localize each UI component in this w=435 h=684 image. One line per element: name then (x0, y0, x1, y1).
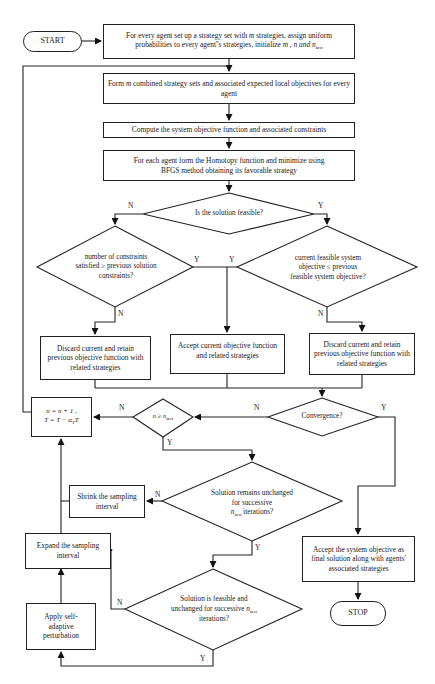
final-solution-box: Accept the system objective as final sol… (302, 536, 415, 582)
accept-current-text: Accept current objective function and re… (175, 341, 280, 360)
perturbation-box: Apply self-adaptive perturbation (26, 603, 96, 650)
objective-decision-text: current feasible system objective ≤ prev… (287, 254, 369, 282)
remains-no-label: N (155, 490, 160, 499)
perturb-box-text: Apply self-adaptive perturbation (37, 612, 85, 641)
form-box-text: Form m combined strategy sets and associ… (108, 79, 350, 98)
homotopy-box-text: For each agent form the Homotopy functio… (128, 156, 330, 175)
start-label: START (40, 36, 64, 46)
start-terminal: START (23, 31, 82, 52)
init-box-text: For every agent set up a strategy set wi… (126, 31, 332, 53)
convergence-decision: Convergence? (290, 408, 354, 426)
constraints-decision-text: number of constraints satisfied ≥ previo… (72, 253, 160, 281)
expand-interval-box: Expand the sampling interval (25, 533, 111, 569)
objective-yes-label: Y (229, 255, 234, 264)
convergence-yes-label: Y (381, 403, 386, 412)
accept-current-box: Accept current objective function and re… (170, 334, 285, 374)
convergence-decision-text: Convergence? (302, 412, 343, 421)
form-strategy-sets-box: Form m combined strategy sets and associ… (103, 73, 355, 104)
feasible-yes-label: Y (318, 201, 323, 210)
discard-right-box: Discard current and retain previous obje… (309, 333, 415, 375)
init-process-box: For every agent set up a strategy set wi… (103, 24, 355, 59)
discard-right-text: Discard current and retain previous obje… (314, 340, 410, 369)
feasible-decision: Is the solution feasible? (170, 203, 288, 225)
constraints-yes-label: Y (194, 255, 199, 264)
shrink-box-text: Shrink the sampling interval (74, 492, 140, 511)
constraints-decision: number of constraints satisfied ≥ previo… (72, 248, 160, 286)
ntest-no-label: N (119, 403, 124, 412)
shrink-interval-box: Shrink the sampling interval (69, 485, 145, 518)
compute-objective-box: Compute the system objective function an… (103, 122, 355, 138)
stop-terminal: STOP (330, 601, 386, 626)
stop-label: STOP (348, 608, 367, 618)
constraints-no-label: N (118, 309, 123, 318)
expand-box-text: Expand the sampling interval (30, 541, 106, 560)
convergence-no-label: N (254, 403, 259, 412)
feasible-unchanged-no-label: N (117, 598, 122, 607)
objective-no-label: N (318, 309, 323, 318)
remains-unchanged-decision: Solution remains unchanged for successiv… (207, 484, 297, 524)
ntest-decision: n ≥ ntest (141, 410, 185, 424)
homotopy-bfgs-box: For each agent form the Homotopy functio… (103, 150, 355, 181)
feasible-decision-text: Is the solution feasible? (195, 209, 263, 218)
update-n-t-box: n = n + 1 , T = T − αTT (31, 397, 92, 437)
feasible-no-label: N (128, 201, 133, 210)
discard-left-text: Discard current and retain previous obje… (45, 344, 146, 373)
compute-box-text: Compute the system objective function an… (132, 125, 326, 135)
final-box-text: Accept the system objective as final sol… (307, 545, 410, 574)
feasible-unchanged-decision: Solution is feasible and unchanged for s… (170, 590, 258, 630)
feasible-unchanged-yes-label: Y (200, 654, 205, 663)
ntest-yes-label: Y (167, 438, 172, 447)
remains-yes-label: Y (255, 543, 260, 552)
discard-left-box: Discard current and retain previous obje… (40, 336, 151, 380)
objective-decision: current feasible system objective ≤ prev… (287, 247, 369, 289)
